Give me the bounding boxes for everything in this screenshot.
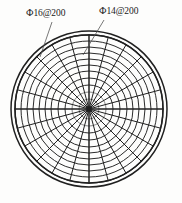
leader-line-group xyxy=(40,20,104,57)
center-point xyxy=(87,107,91,111)
label-phi16: Ф16@200 xyxy=(26,8,65,19)
reinforcement-diagram xyxy=(0,0,182,203)
drawing-canvas: Ф16@200 Ф14@200 xyxy=(0,0,182,203)
leader-line-phi16 xyxy=(40,22,52,57)
label-phi14: Ф14@200 xyxy=(99,6,138,17)
leader-line-phi14 xyxy=(83,20,104,55)
